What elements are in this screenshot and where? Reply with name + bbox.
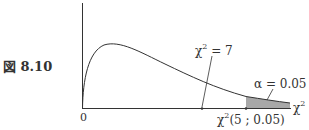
origin-label: 0	[80, 111, 87, 124]
critical-marker	[245, 107, 248, 110]
density-curve	[83, 44, 291, 108]
observed-label: χ2 = 7	[195, 42, 233, 58]
chi-square-chart: 0 χ2 χ2 = 7 α = 0.05 χ2(5 ; 0.05)	[0, 0, 309, 130]
observed-marker	[201, 107, 204, 110]
x-axis-label: χ2	[293, 99, 305, 115]
alpha-label: α = 0.05	[254, 77, 307, 91]
critical-value-label: χ2(5 ; 0.05)	[217, 111, 285, 127]
